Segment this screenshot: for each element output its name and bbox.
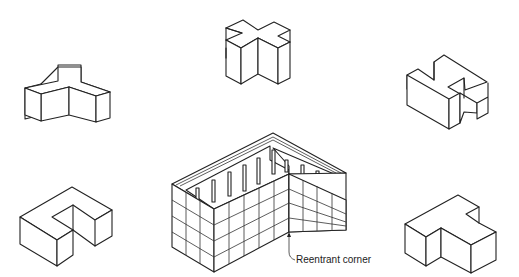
reentrant-corner-leader bbox=[287, 232, 295, 260]
diagram-canvas: Reentrant corner bbox=[0, 0, 519, 277]
diagram-svg bbox=[0, 0, 519, 277]
reentrant-corner-label: Reentrant corner bbox=[296, 254, 371, 265]
h-shape bbox=[407, 55, 488, 129]
u-shape bbox=[20, 187, 112, 266]
t-shape-right bbox=[405, 195, 496, 273]
t-shape-left bbox=[25, 65, 110, 122]
cross-shape bbox=[226, 20, 290, 84]
l-building bbox=[172, 133, 346, 272]
